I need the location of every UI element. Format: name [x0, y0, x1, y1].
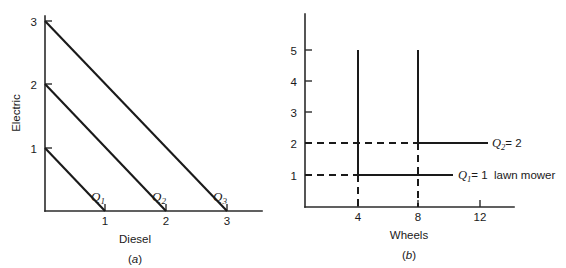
- isoquant-q2-a: [45, 84, 166, 211]
- figure-container: 3 2 1 1 2 3 Electric Diesel Q1 Q2 Q3 (a): [0, 0, 566, 268]
- curve-label-q2-sub-a: 2: [161, 196, 166, 206]
- y-tick-label-5-b: 5: [291, 45, 297, 57]
- y-tick-label-3-a: 3: [31, 16, 37, 28]
- curve-label-q3-sub-a: 3: [221, 196, 227, 206]
- curve-label-q2-a: Q2: [152, 189, 166, 206]
- panel-caption-b: (b): [402, 249, 416, 261]
- curve-label-q3-a: Q3: [213, 189, 227, 206]
- curve-label-q1-sub-a: 1: [100, 196, 105, 206]
- annotation-q1-b: Q1= 1 lawn mower: [458, 168, 556, 184]
- x-tick-label-8-b: 8: [415, 211, 421, 223]
- y-tick-label-3-b: 3: [291, 107, 297, 119]
- x-axis-title-a: Diesel: [119, 233, 151, 245]
- annotation-q2-rest-b: = 2: [505, 137, 521, 149]
- annotation-q2-b: Q2= 2: [492, 136, 522, 152]
- x-tick-label-2-a: 2: [163, 215, 169, 227]
- annotation-q1-rest-b: = 1 lawn mower: [471, 169, 555, 181]
- annotation-q1-symbol-b: Q: [458, 168, 467, 182]
- panel-b-plot: 5 4 3 2 1 4 8 12 Casting Wheels Q2= 2 Q1…: [283, 0, 566, 268]
- y-axis-title-a: Electric: [10, 94, 22, 132]
- isoquant-q1-b: [358, 50, 453, 175]
- curve-label-q1-a: Q1: [91, 189, 105, 206]
- panel-caption-letter-b: b: [406, 249, 413, 261]
- y-tick-label-1-b: 1: [291, 170, 297, 182]
- panel-caption-a: (a): [128, 253, 142, 265]
- y-tick-label-1-a: 1: [31, 143, 37, 155]
- panel-a: 3 2 1 1 2 3 Electric Diesel Q1 Q2 Q3 (a): [0, 0, 283, 268]
- isoquant-q3-a: [45, 21, 227, 211]
- isoquant-q2-b: [418, 50, 488, 143]
- panel-b: 5 4 3 2 1 4 8 12 Casting Wheels Q2= 2 Q1…: [283, 0, 566, 268]
- y-tick-label-2-b: 2: [291, 138, 297, 150]
- x-tick-label-12-b: 12: [474, 211, 487, 223]
- x-axis-title-b: Wheels: [390, 229, 429, 241]
- annotation-q2-symbol-b: Q: [492, 136, 501, 150]
- x-tick-label-3-a: 3: [224, 215, 230, 227]
- panel-a-plot: 3 2 1 1 2 3 Electric Diesel Q1 Q2 Q3 (a): [0, 0, 283, 268]
- y-tick-label-4-b: 4: [291, 76, 298, 88]
- x-tick-label-4-b: 4: [355, 211, 362, 223]
- y-tick-label-2-a: 2: [31, 79, 37, 91]
- panel-caption-letter-a: a: [132, 253, 138, 265]
- x-tick-label-1-a: 1: [102, 215, 108, 227]
